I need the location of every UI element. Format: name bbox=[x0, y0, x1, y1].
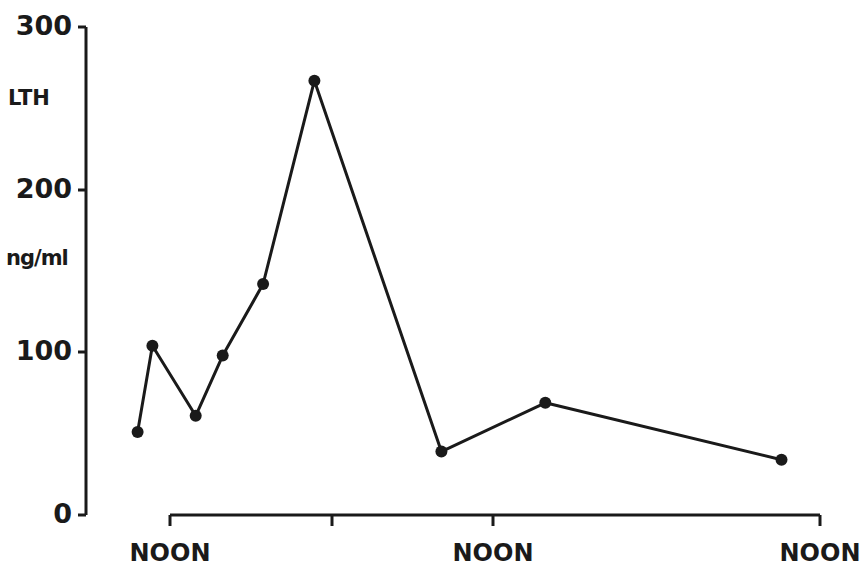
data-point bbox=[539, 397, 551, 409]
data-point bbox=[435, 446, 447, 458]
data-point bbox=[146, 340, 158, 352]
data-point bbox=[132, 426, 144, 438]
x-tick-label-noon-3: NOON bbox=[780, 539, 861, 567]
y-tick-label-100: 100 bbox=[0, 335, 72, 366]
y-tick-label-200: 200 bbox=[0, 173, 72, 204]
x-tick-label-noon-1: NOON bbox=[130, 539, 211, 567]
data-point bbox=[308, 75, 320, 87]
data-point bbox=[776, 454, 788, 466]
data-point bbox=[217, 350, 229, 362]
data-line bbox=[138, 81, 782, 460]
y-tick-label-0: 0 bbox=[0, 498, 72, 529]
y-axis-label-unit: ng/ml bbox=[6, 246, 68, 270]
data-point bbox=[190, 410, 202, 422]
y-tick-label-300: 300 bbox=[0, 10, 72, 41]
axes bbox=[78, 27, 820, 526]
y-axis-label-lth: LTH bbox=[8, 86, 50, 110]
line-chart bbox=[0, 0, 866, 576]
data-point bbox=[257, 278, 269, 290]
x-tick-label-noon-2: NOON bbox=[453, 539, 534, 567]
data-markers bbox=[132, 75, 788, 466]
